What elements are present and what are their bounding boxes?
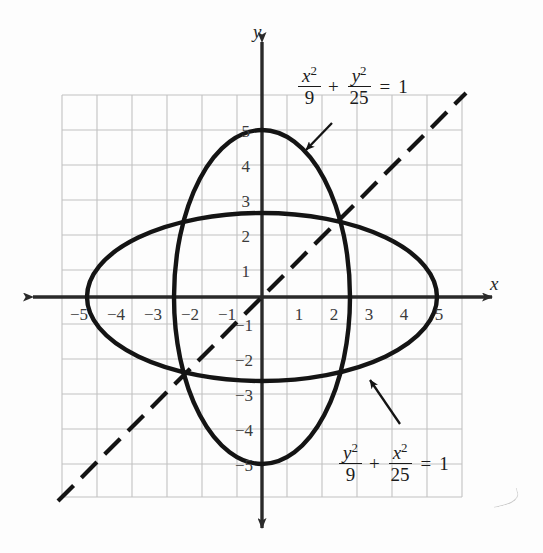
coordinate-plane-svg: x y −5 −4 −3 −2 −1 1 2 3 4 5 5 4 3 2 1 −…: [0, 0, 543, 553]
graph-figure: x y −5 −4 −3 −2 −1 1 2 3 4 5 5 4 3 2 1 −…: [0, 0, 543, 553]
y-tick-label: −4: [235, 421, 254, 440]
x-tick-label: −4: [107, 305, 126, 324]
fraction-denominator: 9: [301, 87, 319, 107]
fraction-top-second: y2 25: [346, 66, 373, 107]
equation-label-bottom: y2 9 + x2 25 = 1: [337, 443, 449, 484]
x-tick-label: 1: [295, 305, 304, 324]
pointer-arrow-bottom-equation: [370, 380, 400, 424]
pointer-arrow-top-equation: [306, 123, 332, 150]
y-tick-label: 1: [242, 262, 251, 281]
equation-right-side: 1: [439, 454, 449, 473]
exponent: 2: [360, 63, 366, 78]
fraction-bottom-second: x2 25: [387, 443, 414, 484]
y-tick-label: 4: [242, 157, 251, 176]
x-tick-label: 2: [330, 305, 339, 324]
equation-right-side: 1: [398, 77, 408, 96]
plus-operator: +: [328, 77, 339, 96]
fraction-denominator: 25: [346, 87, 373, 107]
fraction-denominator: 25: [387, 464, 414, 484]
x-tick-label: −5: [70, 305, 88, 324]
equals-sign: =: [380, 77, 391, 96]
fraction-bottom-first: y2 9: [339, 443, 362, 484]
y-tick-label: 2: [242, 227, 251, 246]
fraction-denominator: 9: [342, 464, 360, 484]
x-tick-label: 5: [435, 305, 444, 324]
y-tick-label: −3: [235, 386, 253, 405]
equals-sign: =: [421, 454, 432, 473]
x-tick-label: −3: [144, 305, 162, 324]
exponent: 2: [351, 440, 357, 455]
exponent: 2: [401, 440, 407, 455]
fraction-top-first: x2 9: [298, 66, 321, 107]
plus-operator: +: [369, 454, 380, 473]
fraction-numerator: y2: [339, 443, 362, 464]
y-tick-label: −5: [235, 456, 253, 475]
y-tick-label: 5: [242, 122, 251, 141]
x-tick-label: 4: [400, 305, 409, 324]
y-tick-label: 3: [242, 192, 251, 211]
x-tick-label: −2: [181, 305, 199, 324]
y-tick-label: −1: [235, 316, 253, 335]
y-tick-label: −2: [235, 351, 253, 370]
fraction-numerator: x2: [298, 66, 321, 87]
y-axis-label: y: [251, 21, 262, 42]
equation-label-top: x2 9 + y2 25 = 1: [296, 66, 408, 107]
fraction-numerator: x2: [389, 443, 412, 464]
x-tick-label: 3: [365, 305, 374, 324]
x-axis-label: x: [489, 273, 499, 294]
fraction-numerator: y2: [348, 66, 371, 87]
exponent: 2: [310, 63, 316, 78]
x-tick-label: −1: [218, 305, 236, 324]
